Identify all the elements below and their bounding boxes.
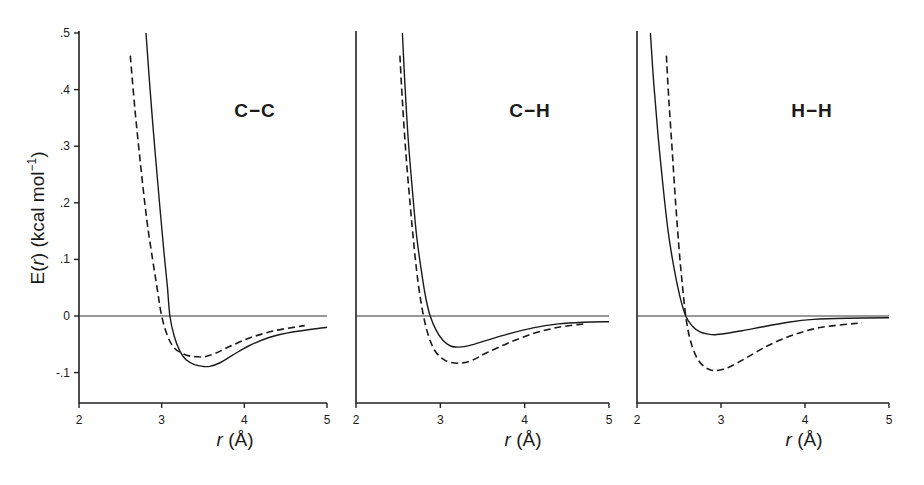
solid-curve [650, 33, 889, 335]
y-tick-label: .1 [60, 252, 70, 266]
x-tick-label: 5 [324, 413, 331, 427]
x-tick-label: 4 [241, 413, 248, 427]
solid-curve [146, 33, 327, 367]
panel-c-c: 2345 .5.4.3.2.10-.1 C−C r (Å) [56, 26, 331, 450]
panel-label: C−H [509, 100, 551, 121]
potential-energy-figure: E(r) (kcal mol−1) 2345 .5.4.3.2.10-.1 C−… [0, 0, 924, 485]
x-tick-label: 2 [76, 413, 83, 427]
x-tick-label: 4 [521, 413, 528, 427]
panel-label: H−H [791, 100, 833, 121]
dashed-curve [130, 56, 304, 357]
y-ticks: .5.4.3.2.10-.1 [56, 26, 79, 380]
x-tick-label: 5 [606, 413, 613, 427]
x-ticks: 2345 [634, 403, 893, 427]
y-tick-label: .4 [60, 83, 70, 97]
x-tick-label: 3 [158, 413, 165, 427]
x-axis-title: r (Å) [217, 429, 254, 450]
y-tick-label: .3 [60, 139, 70, 153]
axes [356, 31, 609, 403]
x-tick-label: 5 [886, 413, 893, 427]
x-axis-title: r (Å) [505, 429, 542, 450]
panel-label: C−C [234, 100, 276, 121]
x-tick-label: 3 [718, 413, 725, 427]
dashed-curve [400, 56, 584, 364]
x-tick-label: 2 [634, 413, 641, 427]
axes [79, 31, 327, 403]
y-axis-title: E(r) (kcal mol−1) [25, 152, 48, 285]
x-axis-title: r (Å) [786, 429, 823, 450]
y-tick-label: .5 [60, 26, 70, 40]
y-tick-label: 0 [63, 309, 70, 323]
panel-h-h: 2345 H−H r (Å) [634, 31, 893, 450]
x-tick-label: 4 [802, 413, 809, 427]
y-tick-label: -.1 [56, 366, 70, 380]
panel-c-h: 2345 C−H r (Å) [353, 31, 613, 450]
x-ticks: 2345 [76, 403, 331, 427]
solid-curve [402, 33, 609, 347]
axes [637, 31, 889, 403]
x-tick-label: 2 [353, 413, 360, 427]
y-tick-label: .2 [60, 196, 70, 210]
x-ticks: 2345 [353, 403, 613, 427]
x-tick-label: 3 [437, 413, 444, 427]
